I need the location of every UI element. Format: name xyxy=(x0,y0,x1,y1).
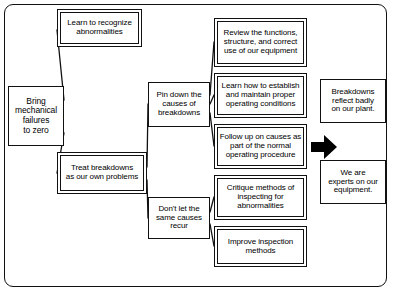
node-dont-let-causes-recur[interactable]: Don't let the same causes recur xyxy=(148,197,210,239)
node-improve-label: Improve inspection methods xyxy=(217,229,304,264)
node-review-functions-structure[interactable]: Review the functions, structure, and cor… xyxy=(214,18,307,67)
node-establish-label: Learn how to establish and maintain prop… xyxy=(217,76,304,115)
node-pin-down-causes[interactable]: Pin down the causes of breakdowns xyxy=(148,82,210,127)
node-learn-label: Learn to recognize abnormalities xyxy=(60,12,139,44)
node-learn-to-recognize-abnormalities[interactable]: Learn to recognize abnormalities xyxy=(57,9,142,47)
node-follow-up-on-causes[interactable]: Follow up on causes as part of the norma… xyxy=(214,124,307,169)
node-establish-maintain-conditions[interactable]: Learn how to establish and maintain prop… xyxy=(214,73,307,118)
node-treat-breakdowns-as-own-problems[interactable]: Treat breakdowns as our own problems xyxy=(57,152,147,194)
node-follow-label: Follow up on causes as part of the norma… xyxy=(217,127,304,166)
node-treat-label: Treat breakdowns as our own problems xyxy=(60,155,144,191)
node-critique-label: Critique methods of inspecting for abnor… xyxy=(217,178,304,217)
node-breakdowns-reflect-badly[interactable]: Breakdowns reflect badly on our plant. xyxy=(320,79,386,123)
node-improve-inspection-methods[interactable]: Improve inspection methods xyxy=(214,226,307,267)
node-review-label: Review the functions, structure, and cor… xyxy=(217,21,304,64)
node-goal[interactable]: Bring mechanical failures to zero xyxy=(8,86,64,146)
diagram-canvas: Bring mechanical failures to zero Learn … xyxy=(0,0,393,293)
node-critique-inspection-methods[interactable]: Critique methods of inspecting for abnor… xyxy=(214,175,307,220)
node-we-are-experts[interactable]: We are experts on our equipment. xyxy=(320,160,386,204)
bold-right-arrow-icon xyxy=(310,133,338,161)
